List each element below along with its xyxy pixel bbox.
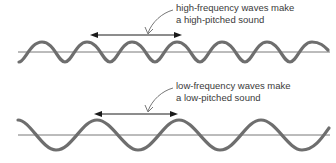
high-frequency-panel: high-frequency waves make a high-pitched… (0, 0, 336, 80)
low-frequency-panel: low-frequency waves make a low-pitched s… (0, 80, 336, 163)
arrowhead-right-icon (174, 32, 182, 38)
high-frequency-label-line1: high-frequency waves make (176, 2, 294, 14)
low-frequency-label: low-frequency waves make a low-pitched s… (176, 80, 291, 104)
arrowhead-left-icon (94, 111, 102, 117)
arrowhead-right-icon (170, 111, 178, 117)
low-frequency-label-line2: a low-pitched sound (176, 92, 291, 104)
high-frequency-label: high-frequency waves make a high-pitched… (176, 2, 294, 26)
high-frequency-label-line2: a high-pitched sound (176, 14, 294, 26)
arrowhead-left-icon (90, 32, 98, 38)
low-frequency-label-line1: low-frequency waves make (176, 80, 291, 92)
